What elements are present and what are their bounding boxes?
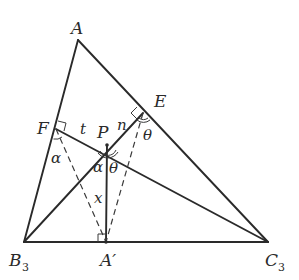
label-b3-main: B <box>8 250 22 270</box>
geometry-diagram: A F E P B 3 C 3 A′ t n x α α θ θ <box>0 0 299 280</box>
label-theta-e: θ <box>143 126 152 144</box>
label-a-prime: A′ <box>98 250 116 270</box>
segment-p-a-prime <box>106 145 107 242</box>
right-angle-e <box>131 107 137 119</box>
label-t: t <box>80 120 87 138</box>
label-x: x <box>94 189 103 207</box>
label-theta-p: θ <box>109 159 118 177</box>
point-a-prime-dot <box>104 240 108 244</box>
arc-theta-e-inner <box>139 118 148 120</box>
label-b3: B 3 <box>8 250 29 274</box>
point-p-dot <box>105 143 109 147</box>
label-b3-sub: 3 <box>22 261 29 274</box>
label-alpha-f: α <box>51 149 61 167</box>
label-a: A <box>69 18 83 38</box>
label-alpha-p: α <box>93 158 103 176</box>
arc-theta-e-outer <box>137 120 150 122</box>
dashed-f-a-prime <box>56 129 106 242</box>
label-c3: C 3 <box>265 250 285 274</box>
right-angle-f <box>58 121 66 131</box>
label-p: P <box>96 122 109 142</box>
label-f: F <box>36 118 50 138</box>
label-c3-sub: 3 <box>278 261 285 274</box>
segment-f-c3 <box>56 129 268 242</box>
label-e: E <box>153 91 167 111</box>
label-n: n <box>117 116 127 134</box>
label-c3-main: C <box>265 250 278 270</box>
